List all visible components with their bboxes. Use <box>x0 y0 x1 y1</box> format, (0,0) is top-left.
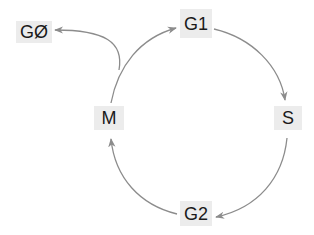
node-g0: GØ <box>16 21 52 43</box>
node-s-label: S <box>282 109 294 127</box>
node-m: M <box>94 106 124 130</box>
node-s: S <box>274 106 302 130</box>
cell-cycle-diagram: GØ G1 S G2 M <box>0 0 314 235</box>
edge-g1-to-s <box>214 29 285 100</box>
node-g2: G2 <box>180 201 212 226</box>
node-g2-label: G2 <box>184 205 208 223</box>
node-g0-label: GØ <box>20 23 48 41</box>
node-g1: G1 <box>180 9 212 38</box>
node-m-label: M <box>102 109 117 127</box>
edge-m-to-g0 <box>55 30 120 70</box>
edge-g2-to-m <box>111 139 177 214</box>
edge-s-to-g2 <box>216 138 287 217</box>
edge-m-to-g1 <box>111 28 176 103</box>
node-g1-label: G1 <box>184 15 208 33</box>
